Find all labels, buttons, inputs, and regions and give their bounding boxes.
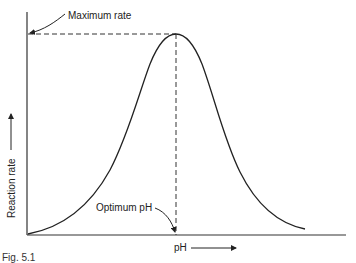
figure-caption: Fig. 5.1 — [2, 252, 35, 263]
optimum-ph-arrow — [155, 208, 175, 232]
x-axis-label: pH — [174, 242, 187, 253]
y-axis-label: Reaction rate — [6, 158, 17, 218]
optimum-ph-label: Optimum pH — [96, 202, 152, 213]
maximum-rate-arrow — [30, 14, 65, 33]
enzyme-ph-curve-diagram: Maximum rate Optimum pH pH Reaction rate — [0, 0, 356, 263]
maximum-rate-label: Maximum rate — [68, 10, 132, 21]
reaction-rate-curve — [28, 34, 305, 234]
